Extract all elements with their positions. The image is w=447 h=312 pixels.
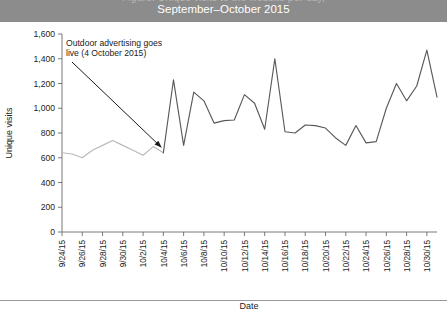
figure-footer-rule [0, 300, 447, 301]
x-tick-label: 10/6/15 [180, 240, 189, 268]
y-tick-label: 800 [41, 128, 56, 138]
x-tick-label: 10/26/15 [383, 240, 392, 272]
y-tick-label: 400 [41, 178, 56, 188]
x-tick-label: 10/14/15 [261, 240, 270, 272]
x-tick-label: 10/24/15 [362, 240, 371, 272]
figure-header-band: Figure: Unique visits to the website per… [0, 0, 447, 22]
x-tick-label: 10/18/15 [301, 240, 310, 272]
annotation-line-2: live (4 October 2015) [66, 48, 146, 58]
data-series [62, 50, 437, 158]
x-tick-label: 10/8/15 [200, 240, 209, 268]
series-line-after-campaign [163, 50, 437, 153]
y-tick-label: 0 [50, 227, 55, 237]
line-chart-svg: 02004006008001,0001,2001,4001,600 Unique… [0, 22, 447, 312]
annotation-campaign-launch: Outdoor advertising goes live (4 October… [66, 38, 162, 148]
y-tick-label: 1,200 [33, 79, 55, 89]
x-tick-label: 10/2/15 [139, 240, 148, 268]
x-tick-label: 10/28/15 [403, 240, 412, 272]
x-tick-label: 10/20/15 [322, 240, 331, 272]
chart-plot-area: 02004006008001,0001,2001,4001,600 Unique… [0, 22, 447, 312]
series-line-before-campaign [62, 140, 163, 157]
x-axis-title: Date [239, 301, 258, 311]
x-tick-label: 10/4/15 [160, 240, 169, 268]
y-tick-label: 1,600 [33, 29, 55, 39]
figure-title: September–October 2015 [0, 3, 447, 15]
x-tick-label: 9/30/15 [119, 240, 128, 268]
y-tick-label: 600 [41, 153, 56, 163]
y-axis-title: Unique visits [4, 107, 14, 159]
x-tick-label: 9/28/15 [99, 240, 108, 268]
x-tick-label: 10/30/15 [423, 240, 432, 272]
x-tick-group: 9/24/159/26/159/28/159/30/1510/2/1510/4/… [58, 232, 432, 272]
x-tick-label: 9/24/15 [58, 240, 67, 268]
annotation-arrow-line [72, 62, 158, 144]
annotation-line-1: Outdoor advertising goes [66, 38, 162, 48]
figure-container: Figure: Unique visits to the website per… [0, 0, 447, 312]
y-tick-group: 02004006008001,0001,2001,4001,600 [33, 29, 62, 237]
x-tick-label: 10/10/15 [220, 240, 229, 272]
x-tick-label: 10/12/15 [241, 240, 250, 272]
y-tick-label: 1,000 [33, 103, 55, 113]
x-tick-label: 10/16/15 [281, 240, 290, 272]
x-tick-label: 9/26/15 [78, 240, 87, 268]
y-tick-label: 1,400 [33, 54, 55, 64]
x-tick-label: 10/22/15 [342, 240, 351, 272]
y-tick-label: 200 [41, 202, 56, 212]
y-axis: 02004006008001,0001,2001,4001,600 Unique… [4, 29, 62, 237]
